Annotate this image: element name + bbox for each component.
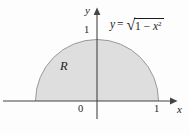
- radicand-exponent: 2: [158, 20, 162, 28]
- radicand-prefix: 1 −: [135, 20, 153, 32]
- x-tick-1-label: 1: [154, 104, 159, 115]
- origin-label: 0: [78, 104, 83, 115]
- region-label: R: [60, 60, 68, 73]
- y-axis-arrow-icon: [94, 8, 101, 16]
- x-axis-label: x: [177, 104, 182, 115]
- curve-equation: y = √ 1 − x2: [110, 18, 164, 33]
- equation-equals: =: [115, 18, 126, 31]
- semicircle-figure: y 1 0 1 x R y = √ 1 − x2: [0, 0, 189, 135]
- y-axis-label: y: [85, 5, 90, 16]
- equation-radicand: 1 − x2: [134, 18, 164, 33]
- y-tick-1-label: 1: [84, 25, 89, 36]
